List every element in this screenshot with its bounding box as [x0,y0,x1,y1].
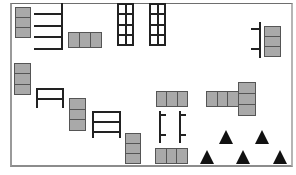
comb-tooth [34,13,63,15]
rack-divider [149,13,166,15]
comb-tooth [34,36,63,38]
rail-tick [179,114,186,116]
rail-tick [251,48,261,50]
desk-block [14,84,31,95]
rack-divider [117,24,134,26]
rack-divider [149,24,166,26]
desk-block [15,27,31,38]
desk-block [177,91,188,107]
desk-block [264,46,281,57]
rack-divider [117,34,134,36]
triangle-marker [219,130,233,144]
desk-block [69,119,86,131]
comb-tooth [34,25,63,27]
comb-tooth [34,48,63,50]
bench-bar [36,98,64,100]
rail-tick [159,134,166,136]
triangle-marker [236,150,250,164]
triangle-marker [200,150,214,164]
diagram-canvas [0,0,296,175]
bench-leg [92,111,94,138]
bench-bar [36,88,64,90]
bench-bar [92,121,121,123]
desk-block [90,32,102,48]
bench-bar [92,111,121,113]
bench-leg [119,111,121,138]
bench-bar [92,131,121,133]
rail-tick [159,114,166,116]
rack-divider [149,34,166,36]
triangle-marker [255,130,269,144]
rail-tick [179,134,186,136]
desk-block [125,153,141,164]
rail-tick [251,28,261,30]
triangle-marker [273,150,287,164]
desk-block [238,104,256,116]
desk-block [176,148,188,164]
rack-divider [117,13,134,15]
